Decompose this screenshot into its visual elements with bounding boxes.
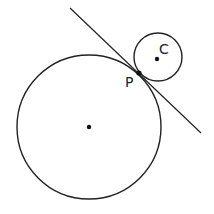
tangent-point-p bbox=[136, 70, 141, 75]
center-point-c bbox=[155, 57, 159, 61]
label-p: P bbox=[125, 74, 133, 90]
tangent-line bbox=[70, 8, 201, 133]
diagram-svg: P C bbox=[0, 0, 214, 214]
label-c: C bbox=[159, 41, 169, 57]
diagram-canvas: P C bbox=[0, 0, 214, 214]
large-circle-center-point bbox=[87, 125, 91, 129]
